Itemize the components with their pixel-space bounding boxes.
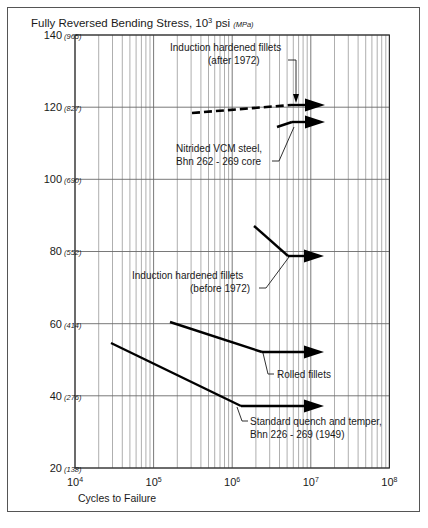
x-tick-10e4: 104 — [67, 476, 83, 488]
y-tick-label-mpa: (414) — [64, 321, 82, 330]
y-tick-80: 80 (552) — [50, 245, 82, 257]
annotation-line-2: Bhn 226 - 269 (1949) — [250, 429, 345, 440]
y-axis-ticks: 140 (965) 120 (827) 100 (690) 80 (552) 6… — [44, 29, 82, 474]
y-axis-title-units-paren: (MPa) — [233, 20, 254, 29]
series-rolled-fillets — [170, 322, 324, 359]
y-tick-40: 40 (276) — [50, 390, 82, 402]
annotation-line-2: Bhn 262 - 269 core — [176, 156, 261, 167]
x-tick-base: 10 — [381, 476, 393, 488]
x-tick-10e8: 108 — [381, 476, 397, 488]
y-tick-label-mpa: (276) — [64, 393, 82, 402]
x-tick-base: 10 — [224, 476, 236, 488]
y-tick-120: 120 (827) — [44, 101, 82, 113]
y-tick-label-mpa: (138) — [64, 465, 82, 474]
x-tick-base: 10 — [67, 476, 79, 488]
y-axis-title-main: Fully Reversed Bending Stress, 10 — [31, 17, 208, 29]
annotation-induction-before-1972: Induction hardened fillets (before 1972) — [132, 257, 289, 294]
y-tick-label-ksi: 40 — [50, 390, 62, 402]
svg-text:Fully Reversed Bending Stress,: Fully Reversed Bending Stress, 103 psi(M… — [31, 16, 254, 29]
y-tick-label-mpa: (965) — [64, 32, 82, 41]
annotation-line-1: Induction hardened fillets — [170, 42, 281, 53]
x-tick-base: 10 — [146, 476, 158, 488]
y-tick-20: 20 (138) — [50, 462, 82, 474]
annotation-line-1: Nitrided VCM steel, — [176, 143, 262, 154]
x-tick-base: 10 — [303, 476, 315, 488]
series-nitrided-vcm-steel — [277, 116, 325, 129]
y-tick-label-ksi: 20 — [50, 462, 62, 474]
y-axis-title-unit: psi — [212, 17, 230, 29]
series-arrowhead — [305, 99, 325, 112]
annotation-line-1: Induction hardened fillets — [132, 270, 243, 281]
x-tick-exponent: 5 — [158, 476, 162, 483]
x-tick-exponent: 6 — [236, 476, 240, 483]
y-tick-label-mpa: (827) — [64, 104, 82, 113]
x-tick-exponent: 4 — [79, 476, 83, 483]
annotation-nitrided-vcm: Nitrided VCM steel, Bhn 262 - 269 core — [176, 127, 294, 167]
annotation-line-2: (before 1972) — [190, 283, 250, 294]
x-tick-10e6: 106 — [224, 476, 240, 488]
y-tick-label-mpa: (552) — [64, 248, 82, 257]
series-arrowhead — [304, 346, 324, 359]
y-tick-60: 60 (414) — [50, 318, 82, 330]
series-arrowhead — [304, 400, 324, 413]
y-tick-100: 100 (690) — [44, 173, 82, 185]
x-tick-exponent: 8 — [394, 476, 398, 483]
x-axis-label: Cycles to Failure — [78, 492, 156, 504]
annotation-standard-quench-temper: Standard quench and temper, Bhn 226 - 26… — [237, 407, 382, 440]
y-tick-label-ksi: 120 — [44, 101, 62, 113]
y-tick-label-ksi: 80 — [50, 245, 62, 257]
x-tick-10e5: 105 — [146, 476, 162, 488]
y-tick-label-ksi: 60 — [50, 318, 62, 330]
y-tick-140: 140 (965) — [44, 29, 82, 41]
y-axis-title: Fully Reversed Bending Stress, 103 psi(M… — [31, 16, 254, 29]
series-arrowhead — [305, 116, 325, 129]
annotation-rolled-fillets: Rolled fillets — [263, 353, 331, 380]
fatigue-sn-chart: Fully Reversed Bending Stress, 103 psi(M… — [0, 0, 428, 528]
annotation-line-2: (after 1972) — [208, 55, 260, 66]
x-tick-10e7: 107 — [303, 476, 319, 488]
annotation-line-1: Standard quench and temper, — [250, 416, 382, 427]
x-tick-exponent: 7 — [315, 476, 319, 483]
y-tick-label-ksi: 140 — [44, 29, 62, 41]
annotation-line-1: Rolled fillets — [277, 369, 331, 380]
x-axis-ticks: 104 105 106 107 108 — [67, 476, 398, 488]
figure-root: Fully Reversed Bending Stress, 103 psi(M… — [0, 0, 428, 528]
y-tick-label-mpa: (690) — [64, 176, 82, 185]
y-tick-label-ksi: 100 — [44, 173, 62, 185]
series-induction-hardened-after-1972 — [192, 99, 325, 114]
